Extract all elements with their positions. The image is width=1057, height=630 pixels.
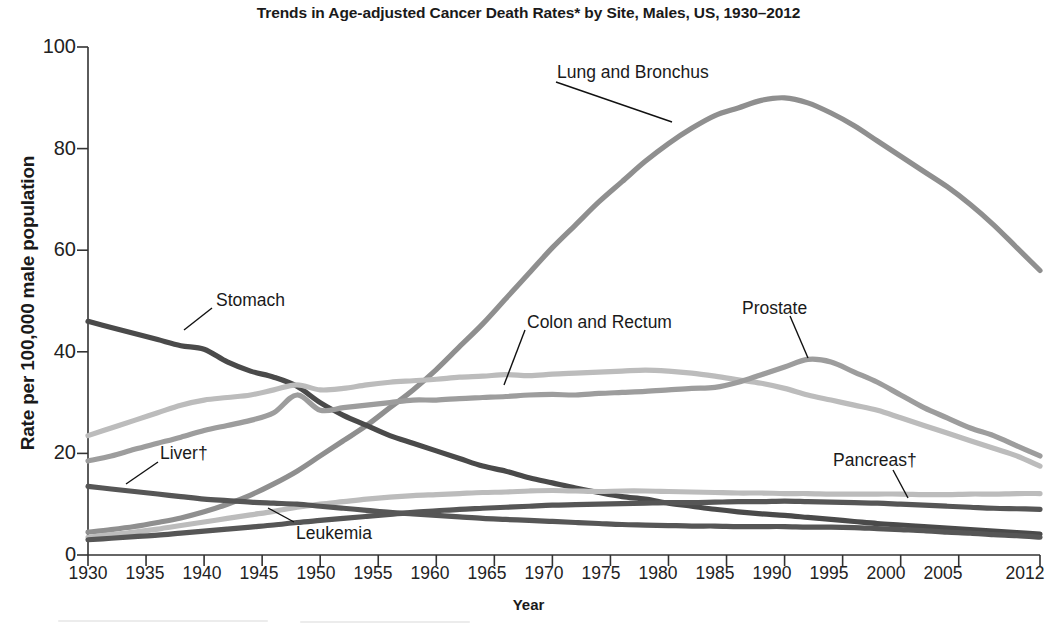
annotation-leader-lines <box>126 82 908 522</box>
leader-line <box>184 308 212 330</box>
scan-artifact <box>58 620 268 622</box>
scan-artifact <box>300 621 470 623</box>
plot-area <box>0 0 1057 630</box>
x-tick-marks <box>88 555 1040 566</box>
series-line-lung-and-bronchus <box>88 98 1040 532</box>
series-line-colon-and-rectum <box>88 370 1040 466</box>
chart-figure: Trends in Age-adjusted Cancer Death Rate… <box>0 0 1057 630</box>
series-lines <box>88 98 1040 540</box>
leader-line <box>556 82 672 122</box>
y-tick-marks <box>77 47 88 555</box>
leader-line <box>126 462 158 484</box>
leader-line <box>790 316 808 358</box>
